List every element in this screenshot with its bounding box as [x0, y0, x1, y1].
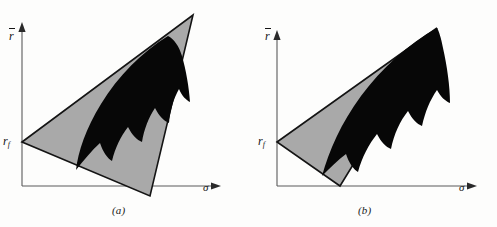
panel-b-y-axis-label: r — [265, 29, 270, 44]
panel-b-y-axis-arrowhead — [273, 30, 280, 40]
panel-a-y-axis-arrowhead — [18, 22, 25, 32]
panel-a-y-axis-label: r — [9, 29, 14, 44]
panel-b-x-axis-label: σ — [459, 181, 464, 193]
panel-a-risk-free-label-text: r — [3, 134, 8, 148]
panel-b — [273, 28, 477, 190]
panel-a-x-axis-arrowhead — [211, 182, 221, 189]
panel-a-y-axis-label-text: r — [9, 30, 14, 42]
panel-b-risk-free-label: rf — [258, 134, 265, 149]
panel-a-caption: (a) — [112, 204, 125, 216]
panel-b-caption: (b) — [358, 204, 371, 216]
panel-b-y-axis-label-text: r — [265, 30, 270, 42]
panel-b-x-axis-arrowhead — [467, 182, 477, 189]
panel-a-risk-free-label: rf — [3, 134, 10, 149]
panel-a — [18, 15, 221, 196]
figure-canvas — [0, 0, 497, 227]
panel-a-risk-free-label-subscript: f — [8, 140, 10, 149]
panel-a-x-axis-label: σ — [203, 181, 208, 193]
figure-container: r rf σ (a) r rf σ (b) — [0, 0, 497, 227]
panel-b-risk-free-label-subscript: f — [263, 140, 265, 149]
panel-b-risk-free-label-text: r — [258, 134, 263, 148]
